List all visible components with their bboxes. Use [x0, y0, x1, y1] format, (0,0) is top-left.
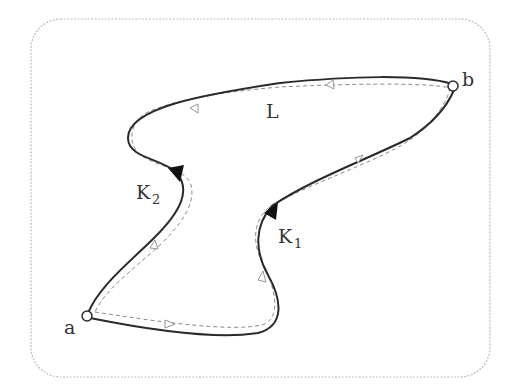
label-L: L [266, 100, 279, 122]
label-K2: K 2 [136, 181, 160, 207]
arrow-L-top [326, 80, 334, 89]
label-K2-main: K [136, 181, 151, 203]
contour-diagram: a b L K 2 K 1 [0, 0, 526, 392]
label-K1-main: K [278, 225, 293, 247]
label-K1: K 1 [278, 225, 302, 251]
label-K1-subscript: 1 [294, 236, 302, 251]
label-b: b [462, 68, 474, 90]
point-b [448, 81, 458, 91]
arrow-K1 [264, 202, 278, 220]
diagram-frame [31, 19, 490, 377]
arrow-L-top-left [190, 104, 198, 113]
arrow-L-bottom [165, 320, 175, 328]
label-a: a [64, 316, 75, 338]
point-a [82, 311, 92, 321]
label-K2-subscript: 2 [152, 192, 160, 207]
arrow-L-k1-lower [258, 271, 266, 282]
